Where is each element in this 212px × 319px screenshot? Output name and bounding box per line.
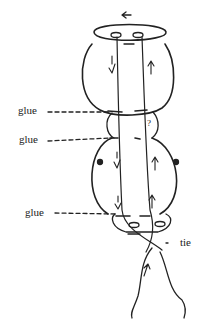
glue-label-top: glue: [18, 105, 37, 116]
tie-label: tie: [180, 237, 191, 248]
lower-sphere: [92, 138, 177, 214]
upper-sphere: [82, 44, 173, 115]
glue-leader-middle: [48, 138, 110, 141]
dot-left: [98, 160, 103, 165]
top-arrow-icon: [122, 12, 131, 18]
glue-label-middle: glue: [19, 134, 38, 145]
question-mark: ?: [147, 118, 151, 128]
strand-bottom: [131, 248, 185, 318]
top-cap: [94, 25, 166, 45]
dot-right: [174, 160, 179, 165]
glue-label-bottom: glue: [25, 207, 44, 218]
bead-diagram: ?: [0, 0, 212, 319]
threads: [117, 37, 162, 252]
bottom-cap: [113, 214, 171, 234]
